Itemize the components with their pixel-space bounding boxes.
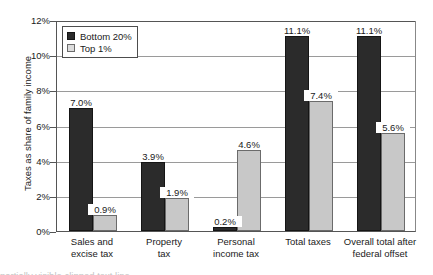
y-tick-label: 0% <box>4 227 50 237</box>
bar-value-label: 3.9% <box>136 151 170 162</box>
bar <box>381 133 405 231</box>
y-tick-label: 2% <box>4 192 50 202</box>
legend-item-label: Top 1% <box>80 43 112 54</box>
legend-item[interactable]: Top 1% <box>67 42 132 54</box>
bar-value-label: 0.9% <box>88 204 122 215</box>
legend: Bottom 20%Top 1% <box>62 26 138 58</box>
bar-chart: Taxes as share of family income 0%2%4%6%… <box>0 0 433 275</box>
legend-item-label: Bottom 20% <box>80 31 132 42</box>
bar <box>285 36 309 231</box>
bar <box>357 36 381 231</box>
x-category-line: federal offset <box>336 248 424 260</box>
bar-value-label: 7.0% <box>64 97 98 108</box>
bar-value-label: 5.6% <box>376 122 410 133</box>
y-tick-label: 6% <box>4 122 50 132</box>
x-category-label: Overall total afterfederal offset <box>336 236 424 259</box>
bar <box>213 227 237 231</box>
bar-value-label: 7.4% <box>304 90 338 101</box>
legend-swatch-icon <box>67 44 75 52</box>
x-category-line: income tax <box>192 248 280 260</box>
bar-value-label: 11.1% <box>280 25 314 36</box>
clipped-caption: partially visible clipped text line <box>0 270 433 275</box>
bar-value-label: 11.1% <box>352 25 386 36</box>
x-category-line: Overall total after <box>336 236 424 248</box>
bar <box>165 198 189 231</box>
y-tick-label: 4% <box>4 157 50 167</box>
bar-value-label: 0.2% <box>208 216 242 227</box>
gridline <box>57 21 415 22</box>
bar-value-label: 4.6% <box>232 139 266 150</box>
y-tick-label: 8% <box>4 86 50 96</box>
y-tick-label: 12% <box>4 16 50 26</box>
bar <box>309 101 333 231</box>
legend-item[interactable]: Bottom 20% <box>67 30 132 42</box>
bar <box>93 215 117 231</box>
y-tick-label: 10% <box>4 51 50 61</box>
y-tick-mark <box>50 232 56 233</box>
bar-value-label: 1.9% <box>160 187 194 198</box>
legend-swatch-icon <box>67 32 75 40</box>
